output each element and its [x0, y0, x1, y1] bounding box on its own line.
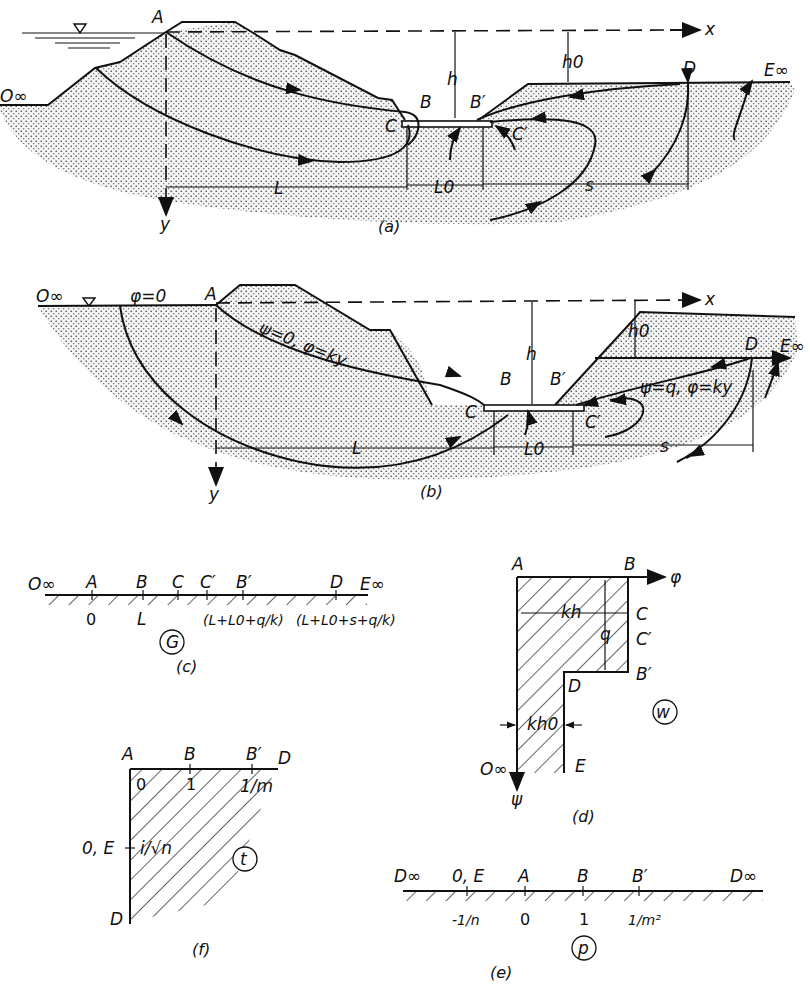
label-h-b: h — [526, 344, 537, 364]
label-O-E-f: 0, E — [82, 838, 115, 858]
label-C-prime-d: C′ — [636, 629, 652, 649]
value-one-over-m: 1/m — [240, 776, 273, 796]
figure-a: O∞ A B B′ C C′ D E∞ x y h h0 L L0 s (a) — [0, 7, 795, 236]
label-A-b: A — [204, 284, 217, 304]
value-one-e: 1 — [579, 910, 589, 929]
label-E-d: E — [575, 756, 586, 776]
label-D-c: D — [330, 572, 343, 592]
label-kh: kh — [561, 602, 582, 622]
label-B-prime-c: B′ — [236, 572, 252, 592]
label-A-f: A — [121, 744, 134, 764]
label-D-b: D — [745, 334, 758, 354]
ground-surface-b — [38, 305, 216, 306]
label-q: q — [600, 624, 611, 644]
label-kh0: kh0 — [527, 714, 558, 734]
label-L: L — [274, 178, 283, 198]
label-C-prime-c: C′ — [200, 572, 216, 592]
label-y: y — [159, 214, 171, 234]
label-D-bottom-f: D — [110, 909, 123, 929]
label-A-e: A — [517, 866, 530, 886]
label-phi-axis: φ — [670, 567, 682, 587]
label-s: s — [585, 175, 594, 195]
soil-region-a — [0, 22, 795, 224]
label-A-d: A — [511, 554, 524, 574]
label-C-c: C — [172, 572, 184, 592]
figure-e-p-plane: D∞ 0, E A B B′ D∞ -1/n 0 1 1/m² p (e) — [394, 866, 763, 982]
label-E-infinity: E∞ — [764, 60, 789, 80]
label-E-infinity-c: E∞ — [360, 574, 385, 594]
label-psi-q: ψ=q, φ=ky — [640, 377, 733, 397]
label-C-prime-b: C′ — [585, 412, 601, 432]
caption-f: (f) — [192, 940, 210, 959]
label-B-d: B — [624, 554, 636, 574]
label-O-infinity-d: O∞ — [480, 759, 508, 779]
label-D-d: D — [568, 676, 581, 696]
water-level-icon — [74, 24, 86, 33]
label-B-prime-d: B′ — [636, 664, 652, 684]
label-L-b: L — [352, 438, 361, 458]
caption-d: (d) — [572, 807, 595, 826]
label-B-prime-e: B′ — [632, 866, 648, 886]
caption-c: (c) — [176, 657, 197, 676]
label-O-infinity-b: O∞ — [36, 286, 64, 306]
label-O-infinity-c: O∞ — [28, 574, 56, 594]
label-D-infinity-left: D∞ — [394, 866, 421, 886]
value-D-c: (L+L0+s+q/k) — [296, 612, 396, 628]
figure-f-t-plane: A B B′ D 0 1 1/m 0, E i/√n D t (f) — [82, 744, 291, 959]
label-B-f: B — [184, 744, 196, 764]
drain-a — [402, 121, 492, 127]
label-h: h — [447, 69, 458, 89]
caption-b: (b) — [420, 482, 443, 501]
value-zero-f: 0 — [136, 775, 146, 794]
value-one-f: 1 — [186, 775, 196, 794]
label-B-prime-b: B′ — [550, 369, 566, 389]
label-B-prime-f: B′ — [246, 744, 262, 764]
value-zero-e: 0 — [520, 910, 530, 929]
figure-c-G-plane: O∞ A B C C′ B′ D E∞ 0 L (L+L0+q/k) (L+L0… — [28, 572, 396, 676]
label-D-infinity-right: D∞ — [730, 866, 757, 886]
label-h0-b: h0 — [628, 321, 650, 341]
figure-d-w-plane: A B φ kh C q C′ B′ D w kh0 E O∞ ψ (d) — [480, 554, 682, 826]
caption-e: (e) — [490, 963, 512, 982]
label-D: D — [683, 58, 696, 78]
label-A: A — [151, 7, 164, 27]
label-D-top-f: D — [278, 748, 291, 768]
label-L0-b: L0 — [524, 439, 544, 459]
label-C-b: C — [465, 402, 477, 422]
label-C-prime: C′ — [512, 124, 528, 144]
label-y-b: y — [208, 484, 220, 504]
label-x-b: x — [704, 289, 716, 309]
label-A-c: A — [85, 572, 98, 592]
label-x: x — [704, 19, 716, 39]
label-O-E-e: 0, E — [452, 866, 485, 886]
label-B-c: B — [136, 572, 148, 592]
label-E-infinity-b: E∞ — [780, 336, 805, 356]
value-i-over-sqrt-n: i/√n — [140, 838, 172, 858]
figure-b: O∞ φ=0 A ψ=0, φ=ky B B′ C C′ ψ=q, φ=ky D… — [36, 284, 805, 504]
value-A-c: 0 — [86, 610, 96, 629]
label-L0: L0 — [434, 177, 454, 197]
w-plane-label: w — [656, 702, 670, 722]
label-B: B — [420, 92, 432, 112]
label-C: C — [385, 116, 397, 136]
label-B-b: B — [500, 369, 512, 389]
label-s-b: s — [660, 436, 669, 456]
value-B-c: L — [137, 609, 146, 629]
value-minus-one-over-n: -1/n — [452, 912, 480, 928]
label-psi-axis: ψ — [511, 789, 523, 809]
drain-b — [484, 405, 584, 411]
label-B-e: B — [577, 866, 589, 886]
G-plane-label: G — [166, 632, 179, 652]
label-B-prime: B′ — [470, 92, 486, 112]
value-B-prime-c: (L+L0+q/k) — [203, 612, 284, 628]
value-one-over-m-squared: 1/m² — [628, 912, 661, 928]
label-h0: h0 — [562, 52, 584, 72]
label-O-infinity: O∞ — [0, 86, 28, 106]
label-phi-zero: φ=0 — [130, 286, 166, 306]
p-plane-label: p — [577, 938, 589, 958]
label-C-d: C — [636, 604, 648, 624]
caption-a: (a) — [378, 217, 400, 236]
